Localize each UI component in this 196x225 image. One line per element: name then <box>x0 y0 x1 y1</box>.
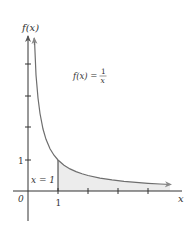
y-axis-label: f(x) <box>21 22 39 33</box>
function-label-lhs: f(x) = <box>72 71 97 81</box>
shaded-area <box>58 160 170 191</box>
function-label: f(x) = 1 x <box>72 67 107 85</box>
x-tick-label-1: 1 <box>56 198 62 208</box>
y-tick-label-1: 1 <box>18 156 24 166</box>
curve-f-of-x <box>35 40 172 185</box>
function-label-denominator: x <box>101 76 106 85</box>
x-axis-label: x <box>178 193 184 204</box>
origin-label: 0 <box>18 194 24 204</box>
function-graph: f(x) x 0 1 1 x = 1 f(x) = 1 x <box>0 0 196 225</box>
function-label-numerator: 1 <box>101 67 106 76</box>
boundary-label: x = 1 <box>31 175 55 185</box>
